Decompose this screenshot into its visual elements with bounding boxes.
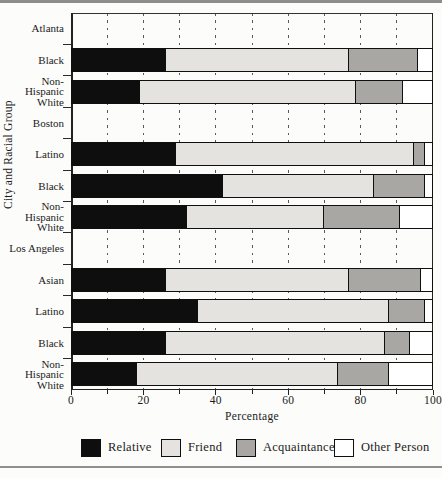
bar-boston-latino (71, 142, 433, 166)
legend-swatch-friend (161, 439, 181, 457)
segment-other-person (425, 143, 432, 165)
label-line: Latino (35, 306, 64, 317)
segment-acquaintance (356, 81, 403, 103)
bar-los-angeles-latino (71, 299, 433, 323)
segment-friend (166, 49, 350, 71)
segment-friend (223, 175, 374, 197)
label-line: Black (38, 181, 64, 192)
category-label-boston-black: Black (0, 170, 64, 201)
legend-label: Friend (188, 440, 222, 455)
y-tick-4 (63, 138, 71, 139)
x-tick-label-40: 40 (199, 394, 233, 406)
legend-item-other-person: Other Person (334, 437, 430, 458)
legend-swatch-relative (81, 439, 101, 457)
x-tick-70 (324, 390, 325, 394)
segment-relative (72, 49, 166, 71)
city-label-boston: Boston (0, 107, 64, 138)
segment-other-person (418, 49, 432, 71)
segment-relative (72, 175, 223, 197)
label-line: Boston (33, 118, 64, 129)
label-line: Black (38, 55, 64, 66)
segment-relative (72, 143, 176, 165)
plot-border-top (71, 13, 433, 14)
category-label-boston-latino: Latino (0, 139, 64, 170)
bar-atlanta-black (71, 48, 433, 72)
segment-friend (137, 363, 339, 385)
legend-label: Acquaintance (263, 440, 335, 455)
y-tick-2 (63, 75, 71, 76)
legend-swatch-acquaintance (236, 439, 256, 457)
y-tick-5 (63, 170, 71, 171)
label-line: White (37, 222, 64, 233)
bar-atlanta-non-hispanic-white (71, 80, 433, 104)
segment-friend (187, 206, 324, 228)
segment-friend (198, 300, 389, 322)
segment-other-person (403, 81, 432, 103)
bottom-rule (0, 466, 442, 468)
segment-other-person (425, 175, 432, 197)
label-line: White (37, 97, 64, 108)
legend-label: Relative (108, 440, 152, 455)
segment-acquaintance (349, 269, 421, 291)
label-line: Hispanic (25, 369, 64, 380)
bar-boston-non-hispanic-white (71, 205, 433, 229)
category-label-los-angeles-non-hispanic-white: Non-HispanicWhite (0, 359, 64, 390)
y-tick-9 (63, 295, 71, 296)
x-axis-title: Percentage (71, 410, 433, 422)
segment-other-person (425, 300, 432, 322)
x-tick-label-0: 0 (54, 394, 88, 406)
segment-other-person (410, 332, 432, 354)
label-line: White (37, 380, 64, 391)
city-label-los-angeles: Los Angeles (0, 233, 64, 264)
y-tick-10 (63, 327, 71, 328)
legend-item-acquaintance: Acquaintance (236, 437, 335, 458)
legend-item-relative: Relative (81, 437, 152, 458)
segment-relative (72, 332, 166, 354)
top-rule (0, 0, 442, 3)
x-tick-label-20: 20 (126, 394, 160, 406)
x-tick-label-100: 100 (416, 394, 442, 406)
label-line: Latino (35, 149, 64, 160)
label-line: Asian (38, 275, 64, 286)
category-label-los-angeles-black: Black (0, 327, 64, 358)
category-label-atlanta-black: Black (0, 44, 64, 75)
segment-acquaintance (389, 300, 425, 322)
x-tick-10 (107, 390, 108, 394)
y-tick-1 (63, 44, 71, 45)
category-label-los-angeles-asian: Asian (0, 264, 64, 295)
label-line: Black (38, 338, 64, 349)
y-tick-8 (63, 264, 71, 265)
label-line: Atlanta (32, 23, 64, 34)
y-tick-3 (63, 107, 71, 108)
segment-acquaintance (324, 206, 400, 228)
segment-friend (176, 143, 414, 165)
plot-area (71, 13, 433, 390)
x-tick-90 (396, 390, 397, 394)
x-tick-label-80: 80 (344, 394, 378, 406)
category-label-boston-non-hispanic-white: Non-HispanicWhite (0, 202, 64, 233)
y-tick-11 (63, 358, 71, 359)
bar-boston-black (71, 174, 433, 198)
category-label-los-angeles-latino: Latino (0, 296, 64, 327)
segment-relative (72, 206, 187, 228)
segment-friend (140, 81, 356, 103)
x-tick-30 (179, 390, 180, 394)
legend-item-friend: Friend (161, 437, 222, 458)
x-tick-50 (252, 390, 253, 394)
x-tick-label-60: 60 (271, 394, 305, 406)
segment-acquaintance (374, 175, 424, 197)
segment-relative (72, 269, 166, 291)
city-label-atlanta: Atlanta (0, 13, 64, 44)
y-tick-6 (63, 201, 71, 202)
segment-relative (72, 81, 140, 103)
segment-friend (166, 269, 350, 291)
segment-acquaintance (349, 49, 417, 71)
y-tick-7 (63, 232, 71, 233)
segment-relative (72, 363, 137, 385)
segment-acquaintance (414, 143, 425, 165)
segment-friend (166, 332, 386, 354)
segment-relative (72, 300, 198, 322)
segment-other-person (389, 363, 432, 385)
segment-acquaintance (385, 332, 410, 354)
segment-other-person (400, 206, 432, 228)
